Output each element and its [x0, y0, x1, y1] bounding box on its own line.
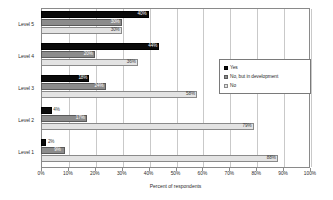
bar-value-label: 30% — [111, 26, 120, 34]
bar-value-label: 79% — [243, 122, 252, 130]
bar[interactable] — [41, 59, 138, 66]
bar[interactable] — [41, 139, 46, 146]
bar-row: 30% — [41, 19, 310, 26]
gridline — [311, 9, 312, 167]
bar[interactable] — [41, 11, 149, 18]
bar-value-label: 24% — [95, 82, 104, 90]
bar-group: 40%30%30% — [41, 8, 310, 40]
legend-swatch-icon — [224, 75, 228, 79]
legend-item[interactable]: Yes — [224, 63, 306, 72]
x-axis-tick-label: 10% — [63, 171, 73, 176]
legend-item[interactable]: No, but in development — [224, 72, 306, 81]
x-axis-tick-label: 20% — [90, 171, 100, 176]
x-axis-tick-label: 80% — [251, 171, 261, 176]
legend-label: Yes — [230, 65, 238, 70]
bar[interactable] — [41, 27, 122, 34]
x-axis-title: Percent of respondents — [41, 183, 310, 189]
bar[interactable] — [41, 19, 122, 26]
bar[interactable] — [41, 91, 197, 98]
bar[interactable] — [41, 155, 278, 162]
bar-chart: Level 5Level 4Level 3Level 2Level 1 40%3… — [0, 0, 333, 200]
bar-value-label: 36% — [127, 58, 136, 66]
bar-group: 4%17%79% — [41, 104, 310, 136]
x-axis-tick-label: 70% — [224, 171, 234, 176]
bar-value-label: 44% — [148, 42, 157, 50]
bar-row: 2% — [41, 139, 310, 146]
bar-value-label: 17% — [76, 114, 85, 122]
bar-row: 17% — [41, 115, 310, 122]
bar-value-label: 20% — [84, 50, 93, 58]
bar-row: 4% — [41, 107, 310, 114]
y-axis-category-labels: Level 5Level 4Level 3Level 2Level 1 — [0, 8, 38, 168]
legend-label: No — [230, 83, 236, 88]
bar[interactable] — [41, 147, 65, 154]
bar-value-label: 2% — [48, 138, 54, 146]
bar-row: 30% — [41, 27, 310, 34]
x-axis-tick-label: 90% — [278, 171, 288, 176]
y-axis-label: Level 1 — [0, 136, 38, 168]
x-axis-tick-label: 60% — [198, 171, 208, 176]
x-axis-tick-label: 100% — [304, 171, 316, 176]
y-axis-label: Level 3 — [0, 72, 38, 104]
x-axis-tick-label: 40% — [144, 171, 154, 176]
y-axis-label: Level 5 — [0, 8, 38, 40]
y-axis-label: Level 2 — [0, 104, 38, 136]
bar-row: 79% — [41, 123, 310, 130]
x-axis: 0%10%20%30%40%50%60%70%80%90%100% — [41, 168, 310, 180]
legend-item[interactable]: No — [224, 81, 306, 90]
legend-label: No, but in development — [230, 74, 278, 79]
x-axis-tick-label: 50% — [171, 171, 181, 176]
bar-value-label: 18% — [78, 74, 87, 82]
chart-legend: YesNo, but in developmentNo — [219, 59, 311, 94]
legend-swatch-icon — [224, 66, 228, 70]
bar-value-label: 58% — [186, 90, 195, 98]
bar-value-label: 88% — [267, 154, 276, 162]
bar[interactable] — [41, 107, 52, 114]
bar-value-label: 9% — [54, 146, 60, 154]
y-axis-label: Level 4 — [0, 40, 38, 72]
bar-row: 44% — [41, 43, 310, 50]
bar-row: 88% — [41, 155, 310, 162]
bar[interactable] — [41, 43, 159, 50]
bar-value-label: 30% — [111, 18, 120, 26]
bar-value-label: 4% — [53, 106, 59, 114]
bar-value-label: 40% — [138, 10, 147, 18]
x-axis-tick-label: 0% — [38, 171, 45, 176]
x-axis-tick-label: 30% — [117, 171, 127, 176]
bar-row: 40% — [41, 11, 310, 18]
bar-row: 9% — [41, 147, 310, 154]
legend-swatch-icon — [224, 84, 228, 88]
bar-row: 20% — [41, 51, 310, 58]
bar[interactable] — [41, 123, 254, 130]
bar-group: 2%9%88% — [41, 136, 310, 168]
